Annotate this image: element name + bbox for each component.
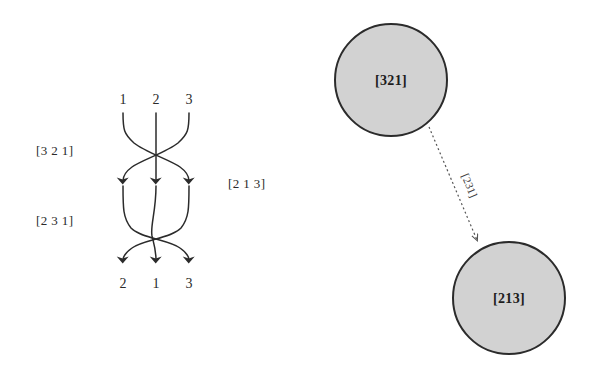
graph-edge-label: [231]	[459, 172, 480, 200]
graph-node-213-label: [213]	[493, 291, 525, 306]
braid-bottom-number-3: 3	[186, 276, 193, 291]
braid-right-label: [2 1 3]	[228, 176, 265, 191]
braid-strand-lower-2to2	[152, 186, 156, 260]
figure-svg: 1 2 3 2 1	[0, 0, 600, 373]
braid-top-number-3: 3	[186, 92, 193, 107]
braid-upper-block	[123, 113, 189, 181]
graph-node-213[interactable]: [213]	[453, 242, 565, 354]
figure-canvas: 1 2 3 2 1	[0, 0, 600, 373]
braid-top-number-1: 1	[120, 92, 127, 107]
braid-lower-block	[123, 186, 189, 260]
graph-node-321[interactable]: [321]	[335, 24, 447, 136]
braid-bottom-number-2: 1	[153, 276, 160, 291]
braid-left-label-lower: [2 3 1]	[36, 213, 73, 228]
braid-top-number-2: 2	[153, 92, 160, 107]
braid-diagram: 1 2 3 2 1	[36, 92, 265, 291]
braid-left-label-upper: [3 2 1]	[36, 143, 73, 158]
state-graph: [231] [321] [213]	[335, 24, 565, 354]
graph-node-321-label: [321]	[375, 73, 407, 88]
braid-bottom-number-1: 2	[120, 276, 127, 291]
